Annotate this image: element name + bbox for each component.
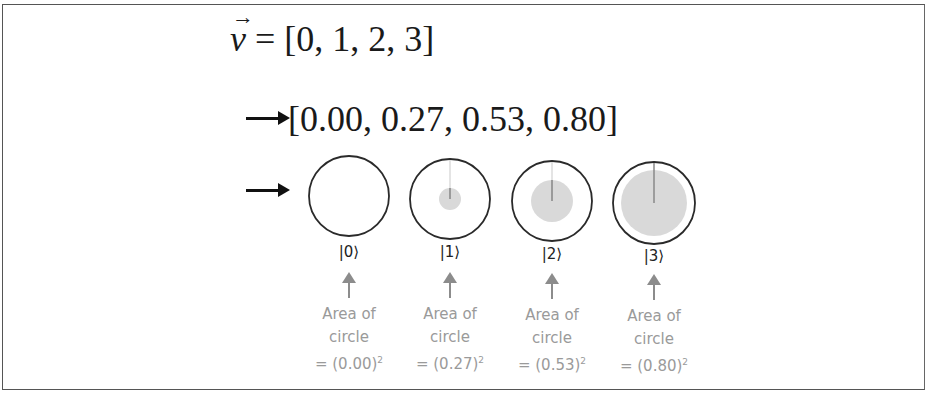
ket-label-0: |0⟩ [319,243,379,261]
ket-label-1: |1⟩ [420,243,480,261]
caption-state-1: Area of circle = (0.27)2 [400,303,500,376]
caption-state-2: Area of circle = (0.53)2 [502,304,602,377]
circle-state-3 [613,162,695,244]
caption-state-3: Area of circle = (0.80)2 [604,305,704,378]
ket-label-3: |3⟩ [624,247,684,265]
circle-state-1 [410,159,490,239]
caption-state-0: Area of circle = (0.00)2 [299,303,399,376]
circle-state-2 [512,161,592,241]
circle-state-0 [309,156,389,236]
pointer-arrows [342,272,661,300]
ket-label-2: |2⟩ [522,245,582,263]
